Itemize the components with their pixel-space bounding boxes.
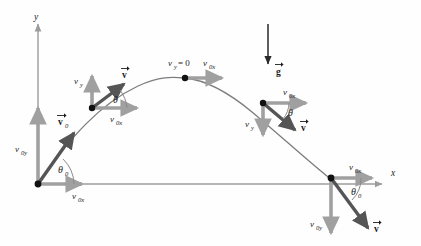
- landing-angle-sublabel: 0: [358, 192, 362, 199]
- gravity-label-group: g: [275, 62, 284, 77]
- landing-resultant-label: v: [374, 224, 379, 234]
- landing-resultant-arrow: [331, 178, 368, 228]
- y-axis-label: y: [33, 12, 39, 22]
- ascending-vy-label-group: v y: [74, 76, 83, 88]
- descending-vy-label: v: [245, 119, 249, 129]
- descending-vx-label: v: [283, 87, 287, 97]
- launch-resultant-label: v: [58, 117, 63, 127]
- ascending-vy-label: v: [74, 76, 78, 86]
- launch-vy-label: v: [15, 144, 19, 154]
- launch-resultant-arrow: [38, 133, 74, 184]
- descending-vy-label-group: v y: [245, 119, 254, 131]
- descending-resultant-label-group: v: [300, 119, 309, 133]
- launch-angle-label-group: θ 0: [58, 164, 69, 177]
- projectile-motion-figure: y x g v 0y v 0x v: [0, 0, 421, 246]
- ascending-vx-sublabel: 0x: [116, 119, 122, 126]
- descending-angle-label: θ: [288, 107, 293, 118]
- launch-vx-sublabel: 0x: [78, 196, 84, 203]
- descending-vx-sublabel: 0x: [289, 92, 295, 99]
- ascending-resultant-label: v: [122, 70, 127, 80]
- landing-point-group: v 0x v 0y v θ 0: [310, 162, 382, 234]
- gravity-label: g: [276, 67, 281, 77]
- landing-angle-label: θ: [351, 186, 356, 197]
- descending-point-group: v 0x v y v θ: [245, 87, 309, 135]
- landing-vx-label: v: [349, 162, 353, 172]
- x-axis-label: x: [390, 168, 396, 178]
- launch-vx-label-group: v 0x: [72, 191, 84, 203]
- ascending-angle-label: θ: [113, 94, 118, 105]
- landing-resultant-bar-arrowhead: [379, 220, 382, 224]
- launch-vy-label-group: v 0y: [15, 144, 27, 156]
- ascending-point-dot: [89, 105, 95, 111]
- landing-angle-label-group: θ 0: [351, 186, 362, 199]
- gravity-vector-bar-arrowhead: [281, 62, 284, 66]
- descending-vy-sublabel: y: [250, 124, 254, 131]
- landing-vy-label-group: v 0y: [310, 219, 322, 231]
- projectile-diagram-svg: y x g v 0y v 0x v: [0, 0, 421, 246]
- landing-vx-label-group: v 0x: [349, 162, 361, 174]
- landing-vy-sublabel: 0y: [316, 224, 322, 231]
- apex-vy-equals-zero: = 0: [178, 58, 190, 68]
- launch-angle-label: θ: [58, 164, 63, 175]
- ascending-vy-sublabel: y: [79, 81, 83, 88]
- apex-point-dot: [182, 75, 188, 81]
- descending-resultant-bar-arrowhead: [306, 119, 309, 123]
- launch-resultant-sublabel: 0: [65, 122, 69, 129]
- ascending-vx-label: v: [110, 114, 114, 124]
- landing-vx-sublabel: 0x: [355, 167, 361, 174]
- apex-vy-sublabel: y: [173, 63, 177, 70]
- landing-point-dot: [328, 175, 335, 182]
- apex-vx-sublabel: 0x: [209, 63, 215, 70]
- launch-resultant-label-group: v 0: [57, 113, 69, 129]
- launch-angle-sublabel: 0: [65, 170, 69, 177]
- apex-vx-label-group: v 0x: [203, 58, 215, 70]
- apex-vy-zero-label-group: v y = 0: [168, 58, 190, 70]
- apex-vy-label: v: [168, 58, 172, 68]
- ascending-point-group: v y v 0x v θ: [74, 66, 137, 126]
- launch-vx-label: v: [72, 191, 76, 201]
- launch-vy-sublabel: 0y: [21, 149, 27, 156]
- launch-point-group: v 0y v 0x v 0 θ 0: [15, 108, 84, 203]
- descending-point-dot: [260, 100, 266, 106]
- ascending-resultant-label-group: v: [121, 66, 130, 80]
- gravity-vector-group: g: [268, 24, 284, 77]
- ascending-resultant-bar-arrowhead: [127, 66, 130, 70]
- landing-vy-label: v: [310, 219, 314, 229]
- landing-resultant-label-group: v: [373, 220, 382, 234]
- launch-point-dot: [35, 181, 42, 188]
- ascending-vx-label-group: v 0x: [110, 114, 122, 126]
- axes-group: y x: [33, 12, 396, 184]
- apex-vx-label: v: [203, 58, 207, 68]
- launch-resultant-bar-arrowhead: [64, 113, 67, 117]
- descending-vx-label-group: v 0x: [283, 87, 295, 99]
- descending-resultant-label: v: [301, 123, 306, 133]
